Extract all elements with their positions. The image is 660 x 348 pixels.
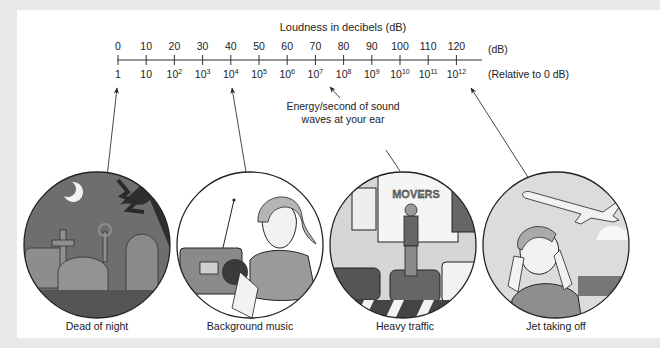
- loudness-diagram: Loudness in decibels (dB) 01101020102301…: [0, 0, 660, 348]
- tick-relative-label: 1: [115, 68, 121, 80]
- tick-db-label: 40: [225, 40, 237, 52]
- scale-title: Loudness in decibels (dB): [280, 21, 407, 33]
- tick-relative-label: 1011: [419, 68, 438, 80]
- arrow-energy-annotation: [330, 87, 340, 98]
- scene-label-dead-of-night: Dead of night: [66, 320, 129, 332]
- tick-relative-label: 103: [195, 68, 211, 80]
- tick-relative-label: 109: [364, 68, 380, 80]
- scene-label-jet-taking-off: Jet taking off: [526, 320, 585, 332]
- tick-db-label: 20: [169, 40, 181, 52]
- tick-db-label: 120: [448, 40, 466, 52]
- scene-jet-taking-off-illustration: [480, 170, 640, 336]
- tick-relative-label: 105: [251, 68, 267, 80]
- tick-relative-label: 10: [140, 68, 152, 80]
- tick-db-label: 70: [310, 40, 322, 52]
- tick-relative-label: 108: [336, 68, 352, 80]
- tick-db-label: 50: [253, 40, 265, 52]
- annotation-line-1: Energy/second of sound: [286, 100, 399, 112]
- tick-relative-label: 1010: [390, 68, 410, 80]
- tick-relative-label: 1012: [447, 68, 467, 80]
- scene-heavy-traffic-illustration: MOVERS: [320, 170, 492, 330]
- relative-unit-label: (Relative to 0 dB): [488, 68, 569, 80]
- tick-db-label: 110: [420, 40, 437, 52]
- scene-label-heavy-traffic: Heavy traffic: [376, 320, 434, 332]
- truck-text: MOVERS: [392, 188, 440, 200]
- tick-relative-label: 102: [167, 68, 183, 80]
- db-unit-label: (dB): [488, 43, 508, 55]
- annotation-line-2: waves at your ear: [301, 113, 385, 125]
- tick-db-label: 10: [140, 40, 152, 52]
- tick-db-label: 60: [281, 40, 293, 52]
- tick-relative-label: 106: [279, 68, 295, 80]
- tick-db-label: 90: [366, 40, 378, 52]
- leader-heavy-traffic: [386, 150, 400, 171]
- scene-background-music-illustration: [170, 170, 330, 320]
- tick-db-label: 30: [197, 40, 209, 52]
- tick-relative-label: 104: [223, 68, 239, 80]
- scene-label-background-music: Background music: [207, 320, 293, 332]
- tick-relative-label: 107: [308, 68, 324, 80]
- tick-db-label: 80: [338, 40, 350, 52]
- tick-db-label: 0: [115, 40, 121, 52]
- tick-db-label: 100: [391, 40, 409, 52]
